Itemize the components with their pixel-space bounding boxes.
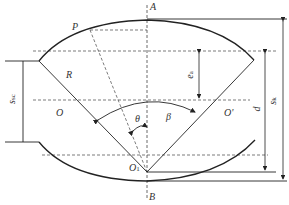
label-beta: β — [166, 112, 171, 122]
label-a: A — [150, 2, 156, 12]
label-ea: ea — [185, 71, 195, 79]
label-o1: O1 — [129, 163, 140, 173]
beta-arc — [98, 102, 195, 120]
label-r: R — [66, 70, 72, 80]
label-o-prime: O' — [224, 108, 233, 118]
diagram-canvas: A P R O O' θ β O1 B ea d sk ssc — [0, 0, 289, 205]
label-b: B — [149, 192, 155, 202]
label-theta: θ — [135, 114, 140, 124]
label-o: O — [56, 108, 63, 118]
label-p: P — [72, 22, 78, 32]
label-ssc: ssc — [7, 94, 17, 104]
theta-arc — [133, 126, 147, 131]
diagram-drawing — [0, 0, 289, 205]
label-sk: sk — [268, 97, 278, 104]
label-d: d — [252, 107, 262, 112]
